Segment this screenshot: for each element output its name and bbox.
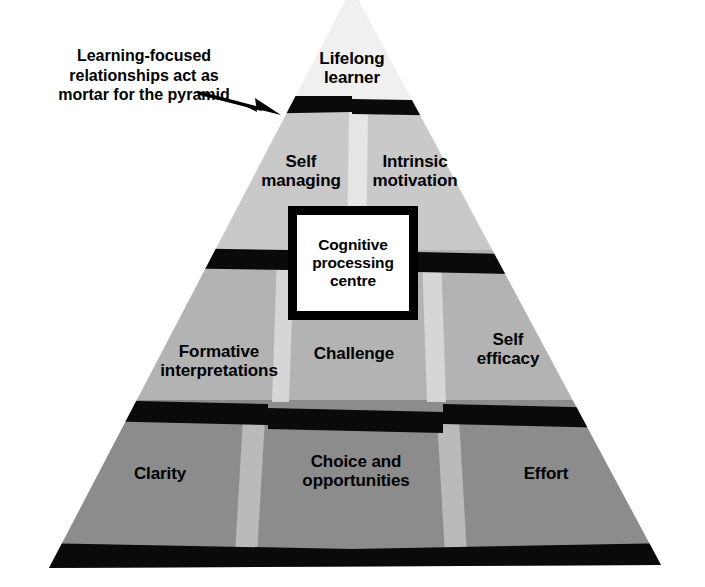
pyramid-diagram: Lifelong learner Self managing Intrinsic…: [0, 0, 705, 587]
cognitive-processing-centre-label: Cognitive processing centre: [312, 236, 394, 291]
cognitive-processing-centre-box: Cognitive processing centre: [288, 206, 418, 320]
mortar-band-3-mid: [268, 408, 443, 433]
mortar-band-2-right: [418, 252, 552, 275]
mortar-band-3-right: [443, 404, 615, 428]
mortar-band-2-left: [160, 248, 288, 270]
mortar-band-3-left: [95, 400, 268, 425]
mortar-band-1b: [352, 99, 470, 116]
annotation-arrow-icon: [195, 88, 285, 120]
